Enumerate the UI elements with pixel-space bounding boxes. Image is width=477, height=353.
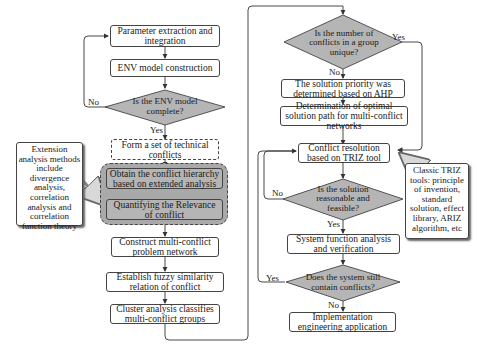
step-parameter-extraction: Parameter extraction and integration (110, 25, 220, 47)
step-optimal-path: Determination of optimal solution path f… (280, 106, 408, 126)
label-env-yes: Yes (150, 125, 163, 135)
note-extension-analysis: Extension analysis methods include diver… (16, 142, 83, 226)
step-conflict-hierarchy: Obtain the conflict hierarchy based on e… (106, 168, 223, 189)
step-form-conflict-set: Form a set of technical conflicts (111, 139, 219, 160)
step-function-verification: System function analysis and verificatio… (287, 234, 400, 254)
step-cluster-analysis: Cluster analysis classifies multi-confli… (110, 304, 220, 324)
label-feasible-yes: Yes (327, 219, 340, 229)
step-ahp-priority: The solution priority was determined bas… (281, 79, 405, 98)
step-env-model-construction: ENV model construction (110, 59, 220, 77)
step-quantify-relevance: Quantifying the Relevance of conflict (106, 199, 223, 220)
decision-still-conflicts-text: Does the system still contain conflicts? (302, 272, 384, 294)
step-construct-network: Construct multi-conflict problem network (111, 237, 219, 257)
decision-unique-text: Is the number of conflicts in a group un… (300, 29, 388, 57)
step-triz-resolution: Conflict resolution based on TRIZ tool (298, 143, 390, 163)
step-implementation: Implementation engineering application (289, 312, 396, 332)
flowchart-canvas: Parameter extraction and integration ENV… (0, 0, 477, 353)
note-classic-triz: Classic TRIZ tools: principle of inventi… (405, 163, 469, 239)
label-still-no: No (328, 300, 339, 310)
label-unique-no: No (329, 67, 340, 77)
label-env-no: No (88, 97, 99, 107)
step-fuzzy-similarity: Establish fuzzy similarity relation of c… (106, 272, 224, 292)
decision-feasible-text: Is the solution reasonable and feasible? (300, 188, 386, 210)
label-still-yes: Yes (266, 273, 279, 283)
label-unique-yes: Yes (392, 32, 405, 42)
decision-env-complete-text: Is the ENV model complete? (130, 96, 200, 118)
label-feasible-no: No (272, 188, 283, 198)
